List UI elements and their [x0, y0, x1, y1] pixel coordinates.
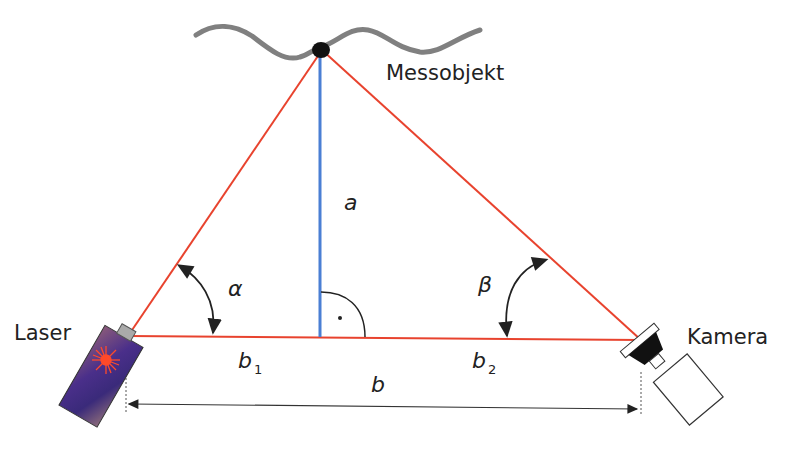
measured-object-surface — [196, 26, 480, 58]
b2-subscript: 2 — [488, 362, 496, 377]
beta-label: β — [478, 272, 492, 297]
b1-subscript: 1 — [254, 362, 262, 377]
measurement-point-icon — [312, 42, 330, 58]
b2-label: b2 — [472, 348, 496, 373]
laser-burst-icon — [92, 346, 120, 374]
b2-base: b — [472, 348, 486, 373]
base-line — [128, 336, 641, 340]
camera-label: Kamera — [687, 325, 768, 349]
laser-beam — [128, 50, 322, 336]
baseline-label: b — [371, 372, 385, 397]
b1-label: b1 — [238, 348, 262, 373]
alpha-angle-arrow-icon — [180, 266, 214, 333]
laser-device-icon — [59, 317, 148, 427]
laser-label: Laser — [14, 321, 71, 345]
height-label: a — [344, 190, 357, 215]
baseline-dimension-arrow — [130, 404, 637, 409]
camera-body-icon — [653, 354, 723, 425]
right-angle-marker-icon — [321, 292, 365, 337]
b1-base: b — [238, 348, 252, 373]
object-label: Messobjekt — [386, 61, 504, 85]
beta-angle-arrow-icon — [506, 260, 545, 336]
alpha-label: α — [228, 276, 243, 301]
